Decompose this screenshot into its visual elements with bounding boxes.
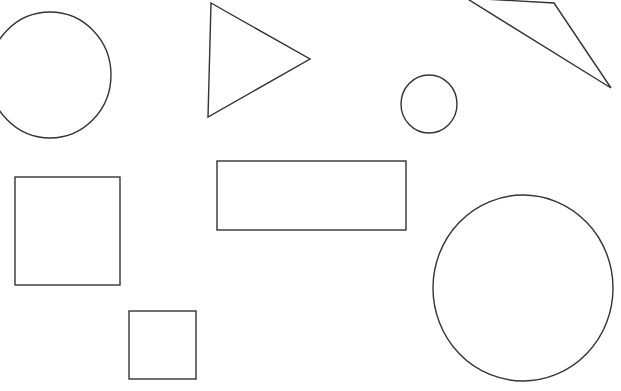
square-small xyxy=(129,311,196,379)
rectangle-wide xyxy=(217,161,406,230)
circle-large xyxy=(433,195,613,381)
triangle-top-right xyxy=(466,0,611,88)
shapes-canvas xyxy=(0,0,621,391)
square-left xyxy=(15,177,120,285)
circle-small xyxy=(401,75,457,133)
circle-top-left xyxy=(0,12,111,138)
triangle-top-center xyxy=(208,3,310,117)
